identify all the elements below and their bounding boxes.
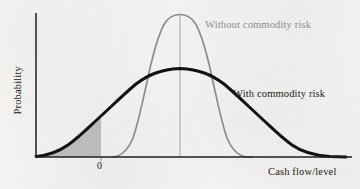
- chart-figure: Without commodity risk With commodity ri…: [0, 0, 360, 189]
- series-label-without-commodity-risk: Without commodity risk: [205, 20, 311, 31]
- y-axis-label: Probability: [13, 55, 24, 125]
- series-label-with-commodity-risk: With commodity risk: [233, 89, 325, 100]
- x-axis-label: Cash flow/level: [268, 167, 336, 178]
- x-axis-tick-label-zero: 0: [97, 161, 102, 171]
